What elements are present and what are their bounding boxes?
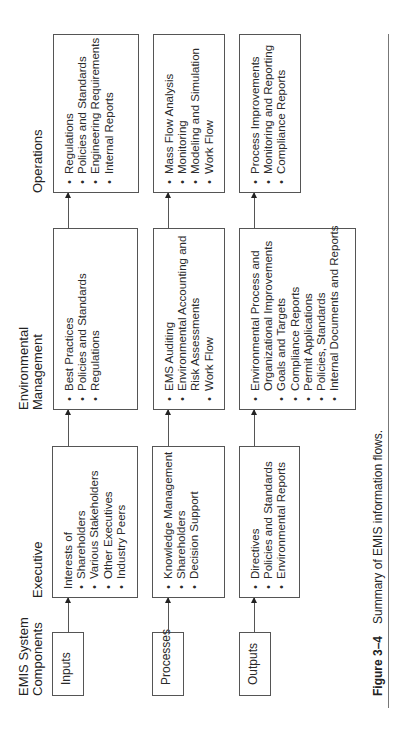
list-item: EMS Auditing xyxy=(163,236,176,401)
header-line: Management xyxy=(31,327,45,410)
list-item: Modeling and Simulation xyxy=(189,48,202,184)
list-item: Environmental Accounting and xyxy=(176,236,189,401)
list-item: Compliance Reports xyxy=(275,45,288,184)
operations-box-inputs: Regulations Policies and Standards Engin… xyxy=(53,34,139,193)
list-item: Internal Reports xyxy=(103,38,116,184)
list-item: Best Practices xyxy=(63,273,76,401)
environmental-outputs-list: Environmental Process and Organizational… xyxy=(249,225,341,401)
header-environmental-management: Environmental Management xyxy=(17,327,45,410)
list-item: Shareholders xyxy=(75,471,88,589)
figure-number: Figure 3–4 xyxy=(371,636,385,696)
component-box-processes: Processes xyxy=(152,632,184,696)
list-item: Internal Documents and Reports xyxy=(328,225,341,401)
environmental-box-inputs: Best Practices Policies and Standards Re… xyxy=(53,228,138,410)
list-item: Mass Flow Analysis xyxy=(163,48,176,184)
list-item: Industry Peers xyxy=(115,471,128,589)
list-item: Policies and Standards xyxy=(262,461,275,589)
figure-caption: Figure 3–4Summary of EMIS information fl… xyxy=(372,430,385,696)
list-item: Monitoring and Reporting xyxy=(262,45,275,184)
list-item: Permit Applications xyxy=(302,225,315,401)
environmental-processes-list: EMS Auditing Environmental Accounting an… xyxy=(163,236,216,401)
component-label: Outputs xyxy=(247,643,261,685)
list-item: Environmental Reports xyxy=(275,461,288,589)
list-item: Work Flow xyxy=(203,48,216,184)
list-item: Engineering Requirements xyxy=(89,38,102,184)
flow-arrow xyxy=(254,193,255,228)
flow-arrow xyxy=(254,410,255,446)
flow-arrow xyxy=(168,598,169,632)
executive-inputs-list: Interests of Shareholders Various Stakeh… xyxy=(62,471,128,589)
caption-rule xyxy=(388,34,389,708)
list-item-continuation: Risk Assessments xyxy=(189,236,202,401)
executive-box-processes: Knowledge Management Shareholders Decisi… xyxy=(152,446,225,598)
component-label: Processes xyxy=(160,629,174,685)
list-item: Work Flow xyxy=(203,236,216,401)
operations-inputs-list: Regulations Policies and Standards Engin… xyxy=(63,38,116,184)
flow-arrow xyxy=(68,193,69,228)
executive-box-outputs: Directives Policies and Standards Enviro… xyxy=(239,446,300,598)
header-executive: Executive xyxy=(31,542,45,598)
emis-information-flow-diagram: EMIS System Components Executive Environ… xyxy=(0,0,405,748)
executive-processes-list: Knowledge Management Shareholders Decisi… xyxy=(162,452,202,589)
flow-arrow xyxy=(68,598,69,632)
header-line: Environmental xyxy=(17,327,31,410)
environmental-inputs-list: Best Practices Policies and Standards Re… xyxy=(63,273,103,401)
header-operations: Operations xyxy=(31,129,45,193)
environmental-box-outputs: Environmental Process and Organizational… xyxy=(239,228,356,410)
flow-arrow xyxy=(168,193,169,228)
operations-box-outputs: Process Improvements Monitoring and Repo… xyxy=(239,34,301,193)
list-item: Decision Support xyxy=(188,452,201,589)
list-intro: Interests of xyxy=(62,471,75,589)
operations-box-processes: Mass Flow Analysis Monitoring Modeling a… xyxy=(153,34,225,193)
list-item: Environmental Process and xyxy=(249,225,262,401)
list-item: Shareholders xyxy=(175,452,188,589)
list-item: Monitoring xyxy=(176,48,189,184)
list-item-continuation: Organizational Improvements xyxy=(262,225,275,401)
list-item: Compliance Reports xyxy=(289,225,302,401)
executive-outputs-list: Directives Policies and Standards Enviro… xyxy=(249,461,289,589)
list-item: Regulations xyxy=(63,38,76,184)
header-emis-system-components: EMIS System Components xyxy=(17,617,45,696)
list-item: Policies, Standards xyxy=(315,225,328,401)
header-line: Components xyxy=(31,617,45,696)
list-item: Knowledge Management xyxy=(162,452,175,589)
component-box-inputs: Inputs xyxy=(52,632,84,696)
flow-arrow xyxy=(68,410,69,446)
operations-outputs-list: Process Improvements Monitoring and Repo… xyxy=(249,45,289,184)
list-item: Other Executives xyxy=(102,471,115,589)
flow-arrow xyxy=(254,598,255,632)
list-item: Directives xyxy=(249,461,262,589)
list-item: Goals and Targets xyxy=(275,225,288,401)
operations-processes-list: Mass Flow Analysis Monitoring Modeling a… xyxy=(163,48,216,184)
header-line: EMIS System xyxy=(17,617,31,696)
list-item: Regulations xyxy=(89,273,102,401)
component-box-outputs: Outputs xyxy=(239,632,271,696)
list-item: Policies and Standards xyxy=(76,38,89,184)
caption-text: Summary of EMIS information flows. xyxy=(371,430,385,624)
flow-arrow xyxy=(168,410,169,446)
executive-box-inputs: Interests of Shareholders Various Stakeh… xyxy=(52,446,138,598)
environmental-box-processes: EMS Auditing Environmental Accounting an… xyxy=(153,228,225,410)
component-label: Inputs xyxy=(60,652,74,685)
list-item: Process Improvements xyxy=(249,45,262,184)
list-item: Various Stakeholders xyxy=(88,471,101,589)
list-item: Policies and Standards xyxy=(76,273,89,401)
